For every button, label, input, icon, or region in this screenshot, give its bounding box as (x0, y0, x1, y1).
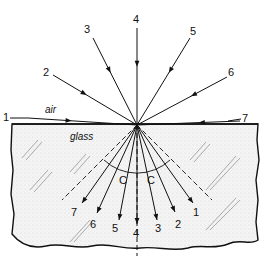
incident-ray-5 (137, 38, 190, 125)
medium-label-glass: glass (70, 131, 93, 142)
arrow-icon (191, 91, 197, 96)
incident-ray-label: 4 (133, 13, 139, 25)
arrow-icon (106, 66, 111, 72)
refracted-ray-label: 6 (90, 218, 96, 230)
arrow-icon (80, 90, 86, 95)
incident-ray-label: 6 (228, 66, 234, 78)
critical-angle-label: C (147, 174, 155, 186)
refracted-ray-label: 7 (71, 206, 77, 218)
incident-ray-label: 5 (190, 25, 196, 37)
arrow-icon (135, 61, 140, 67)
refracted-ray-label: 4 (133, 227, 139, 239)
incident-ray-label: 1 (3, 111, 9, 123)
arrow-icon (169, 66, 174, 72)
refracted-ray-label: 2 (175, 218, 181, 230)
incident-ray-label: 7 (242, 112, 248, 124)
refraction-diagram: 12345677654321airglassCC (0, 0, 272, 256)
incident-ray-label: 2 (43, 66, 49, 78)
refracted-ray-label: 3 (155, 222, 161, 234)
refracted-ray-label: 5 (112, 222, 118, 234)
incident-ray-label: 3 (84, 23, 90, 35)
medium-label-air: air (45, 104, 57, 115)
refracted-ray-label: 1 (193, 206, 199, 218)
incident-ray-6 (137, 77, 227, 125)
critical-angle-label: C (119, 174, 127, 186)
arrow-icon (65, 118, 71, 123)
